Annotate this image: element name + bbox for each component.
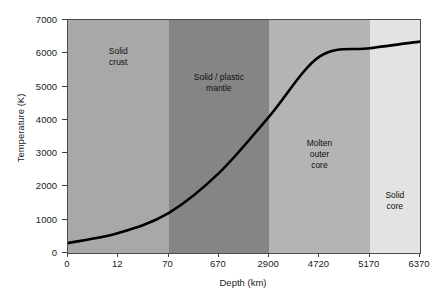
y-tick-label: 3000: [5, 147, 57, 158]
region-band-label: Solid core: [370, 190, 420, 212]
y-tick-label: 4000: [5, 113, 57, 124]
region-band-label: Solid crust: [68, 46, 169, 68]
x-axis-title: Depth (km): [67, 277, 419, 288]
region-band-label: Molten outer core: [269, 138, 370, 171]
x-tick-label: 6370: [389, 258, 437, 269]
y-tick-label: 2000: [5, 180, 57, 191]
region-band-label: Solid / plastic mantle: [169, 72, 270, 94]
temperature-depth-chart: Temperature (K) Depth (km) 0100020003000…: [0, 0, 437, 307]
y-tick-label: 7000: [5, 14, 57, 25]
y-tick-label: 6000: [5, 47, 57, 58]
plot-area: Solid crustSolid / plastic mantleMolten …: [67, 19, 421, 254]
y-tick-label: 1000: [5, 213, 57, 224]
y-tick-label: 0: [5, 247, 57, 258]
y-tick-label: 5000: [5, 80, 57, 91]
